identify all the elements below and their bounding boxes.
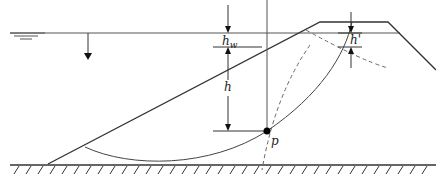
h-label: h (224, 80, 232, 94)
h-prime-label: h' (350, 33, 361, 47)
arrow-head-icon (225, 124, 231, 131)
hw-label: hw (222, 34, 237, 50)
water-level-symbol (10, 33, 45, 39)
arrow-head-icon (348, 47, 354, 54)
ground-hatching (14, 166, 427, 174)
embankment-outline (48, 22, 436, 164)
arrow-head-icon (84, 53, 92, 60)
equipotential-line (262, 45, 310, 170)
diagram-svg (0, 0, 436, 186)
arrow-head-icon (225, 26, 231, 33)
point-p-marker (264, 128, 271, 135)
phreatic-line (306, 30, 388, 68)
slip-surface-curve (85, 22, 352, 161)
slope-seepage-diagram: hw h h' p (0, 0, 436, 186)
point-p-label: p (271, 134, 279, 148)
